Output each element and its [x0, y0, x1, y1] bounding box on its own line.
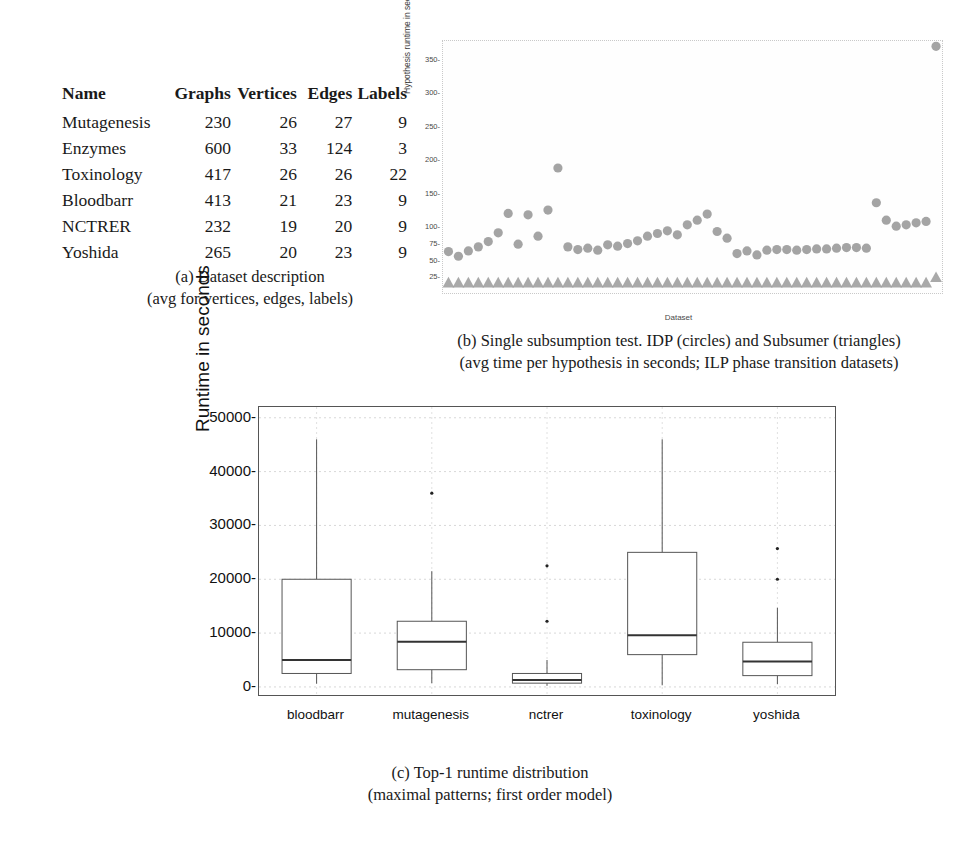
scatter-marker-circle: [514, 240, 523, 249]
scatter-marker-circle: [504, 209, 513, 218]
scatter-marker-triangle: [880, 277, 892, 288]
scatter-marker-circle: [494, 228, 503, 237]
scatter-marker-circle: [444, 247, 453, 256]
scatter-marker-circle: [673, 230, 682, 239]
scatter-marker-circle: [862, 244, 871, 253]
column-header-name: Name: [62, 82, 165, 109]
scatter-marker-circle: [633, 236, 642, 245]
boxplot-x-tick: mutagenesis: [393, 707, 470, 722]
scatter-marker-circle: [663, 226, 672, 235]
cell-edges: 124: [297, 135, 352, 161]
boxplot-x-tick: bloodbarr: [287, 707, 344, 722]
scatter-marker-triangle: [701, 277, 713, 288]
scatter-marker-circle: [623, 239, 632, 248]
scatter-marker-triangle: [552, 277, 564, 288]
scatter-marker-circle: [653, 229, 662, 238]
scatter-marker-triangle: [741, 277, 753, 288]
scatter-y-tick: 250-: [406, 122, 440, 131]
scatter-canvas: [443, 41, 944, 295]
cell-vertices: 26: [231, 109, 297, 135]
cell-vertices: 19: [231, 213, 297, 239]
scatter-marker-triangle: [443, 277, 454, 288]
cell-edges: 20: [297, 213, 352, 239]
cell-name: NCTRER: [62, 213, 165, 239]
scatter-marker-triangle: [821, 277, 833, 288]
dataset-table: Name Graphs Vertices Edges Labels Mutage…: [62, 82, 407, 265]
boxplot-outlier-point: [545, 620, 548, 623]
scatter-marker-triangle: [691, 277, 703, 288]
column-header-graphs: Graphs: [165, 82, 231, 109]
caption-b: (b) Single subsumption test. IDP (circle…: [404, 330, 954, 375]
scatter-marker-circle: [573, 245, 582, 254]
scatter-marker-triangle: [771, 277, 783, 288]
scatter-marker-circle: [543, 206, 552, 215]
cell-vertices: 20: [231, 239, 297, 265]
scatter-marker-circle: [583, 244, 592, 253]
scatter-marker-triangle: [721, 277, 733, 288]
scatter-marker-circle: [722, 234, 731, 243]
dataset-table-panel: Name Graphs Vertices Edges Labels Mutage…: [62, 82, 407, 265]
cell-graphs: 413: [165, 187, 231, 213]
boxplot-y-tick: 10000-: [198, 623, 256, 640]
scatter-marker-circle: [643, 232, 652, 241]
scatter-marker-circle: [732, 249, 741, 258]
scatter-marker-circle: [613, 242, 622, 251]
boxplot-outlier-point: [776, 547, 779, 550]
scatter-marker-circle: [742, 246, 751, 255]
boxplot-plot-area: [258, 406, 836, 696]
scatter-marker-circle: [563, 242, 572, 251]
scatter-y-tick: 25-: [406, 272, 440, 281]
caption-c-line2: (maximal patterns; first order model): [230, 784, 750, 806]
scatter-marker-circle: [802, 245, 811, 254]
cell-vertices: 33: [231, 135, 297, 161]
boxplot-outlier-point: [430, 492, 433, 495]
table-row: Yoshida 265 20 23 9: [62, 239, 407, 265]
scatter-y-axis-title: Hypothesis runtime in seconds: [402, 0, 412, 94]
scatter-marker-circle: [484, 237, 493, 246]
scatter-marker-triangle: [542, 277, 554, 288]
table-row: Bloodbarr 413 21 23 9: [62, 187, 407, 213]
boxplot-x-tick: yoshida: [753, 707, 800, 722]
scatter-marker-triangle: [632, 277, 644, 288]
scatter-marker-triangle: [522, 277, 534, 288]
scatter-marker-triangle: [453, 277, 465, 288]
caption-c: (c) Top-1 runtime distribution (maximal …: [230, 762, 750, 807]
cell-labels: 9: [352, 187, 407, 213]
scatter-marker-triangle: [851, 277, 863, 288]
cell-labels: 9: [352, 213, 407, 239]
boxplot-y-tick: 30000-: [198, 515, 256, 532]
scatter-marker-circle: [454, 252, 463, 261]
caption-b-line2: (avg time per hypothesis in seconds; ILP…: [404, 352, 954, 374]
column-header-edges: Edges: [297, 82, 352, 109]
scatter-marker-triangle: [811, 277, 823, 288]
caption-b-line1: (b) Single subsumption test. IDP (circle…: [404, 330, 954, 352]
scatter-marker-circle: [921, 217, 930, 226]
scatter-marker-circle: [703, 210, 712, 219]
scatter-marker-triangle: [841, 277, 853, 288]
scatter-y-tick: 300-: [406, 88, 440, 97]
scatter-marker-triangle: [642, 277, 654, 288]
scatter-marker-circle: [892, 222, 901, 231]
scatter-marker-circle: [593, 246, 602, 255]
cell-graphs: 265: [165, 239, 231, 265]
column-header-labels: Labels: [352, 82, 407, 109]
scatter-marker-triangle: [562, 277, 574, 288]
scatter-marker-triangle: [622, 277, 634, 288]
scatter-marker-circle: [523, 210, 532, 219]
scatter-y-tick: 100-: [406, 222, 440, 231]
scatter-marker-circle: [693, 216, 702, 225]
scatter-marker-triangle: [502, 277, 514, 288]
table-row: Mutagenesis 230 26 27 9: [62, 109, 407, 135]
boxplot-y-tick: 20000-: [198, 569, 256, 586]
cell-name: Yoshida: [62, 239, 165, 265]
scatter-marker-triangle: [831, 277, 843, 288]
scatter-marker-circle: [822, 244, 831, 253]
cell-edges: 26: [297, 161, 352, 187]
scatter-marker-triangle: [781, 277, 793, 288]
scatter-marker-triangle: [731, 277, 743, 288]
scatter-marker-triangle: [661, 277, 673, 288]
boxplot-box: [397, 621, 466, 669]
scatter-marker-triangle: [910, 277, 922, 288]
column-header-vertices: Vertices: [231, 82, 297, 109]
scatter-marker-triangle: [652, 277, 664, 288]
